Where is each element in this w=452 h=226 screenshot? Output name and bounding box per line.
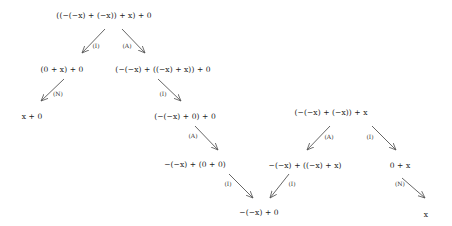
- edge-n5-to-n6: [229, 174, 253, 198]
- edge-label-e8: (A): [324, 133, 333, 140]
- edge-n8-to-n9: [402, 178, 425, 198]
- node-root2: (−(−x) + (−x)) + x: [294, 108, 367, 117]
- edge-label-e3: (N): [53, 90, 63, 97]
- node-n3: x + 0: [22, 112, 43, 121]
- arrows-layer: [0, 0, 452, 226]
- edge-label-e10: (N): [395, 180, 405, 187]
- edge-label-e9: (I): [366, 133, 373, 140]
- edge-label-e1: (I): [92, 42, 99, 49]
- edge-n4-to-n5: [195, 126, 218, 150]
- edge-root2-to-n8: [372, 126, 396, 150]
- edge-n7-to-n6: [270, 174, 289, 198]
- node-n8: 0 + x: [390, 161, 411, 170]
- node-n2: (−(−x) + ((−x) + x)) + 0: [115, 65, 210, 74]
- node-n1: (0 + x) + 0: [41, 65, 84, 74]
- node-n4: (−(−x) + 0) + 0: [154, 112, 216, 121]
- edge-label-e2: (A): [122, 42, 131, 49]
- node-n9: x: [424, 210, 428, 219]
- edge-label-e7: (I): [288, 180, 295, 187]
- edge-label-e6: (I): [224, 180, 231, 187]
- node-n6: −(−x) + 0: [239, 208, 278, 217]
- node-n7: −(−x) + ((−x) + x): [268, 161, 341, 170]
- edge-label-e4: (I): [159, 90, 166, 97]
- node-root: ((−(−x) + (−x)) + x) + 0: [56, 11, 151, 20]
- node-n5: −(−x) + (0 + 0): [164, 160, 226, 169]
- edge-label-e5: (A): [188, 132, 197, 139]
